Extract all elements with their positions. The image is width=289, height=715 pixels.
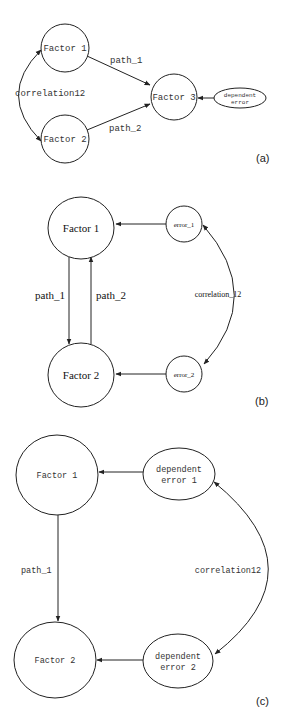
diagram-c: correlation12 path_1 Factor 1 Factor 2 d… [14, 435, 269, 707]
factor-3-label-a: Factor 3 [152, 93, 195, 103]
factor-2-label-b: Factor 2 [63, 369, 99, 381]
error-2-label-b: error_2 [174, 371, 195, 379]
correlation-label-b: correlation_12 [195, 290, 242, 299]
dependent-error-1-label-line1-c: dependent [156, 465, 202, 475]
dependent-error-2-label-line2-c: error 2 [160, 663, 196, 673]
path-2-label-a: path_2 [109, 124, 141, 134]
path-1-label-c: path_1 [21, 566, 52, 576]
dependent-error-2-label-line1-c: dependent [155, 652, 201, 662]
factor-1-label-c: Factor 1 [37, 471, 78, 481]
correlation-label-a: correlation12 [15, 89, 85, 99]
path-diagrams-figure: correlation12 path_1 path_2 Factor 1 Fac… [0, 0, 289, 715]
panel-label-c: (c) [256, 695, 269, 707]
correlation-label-c: correlation12 [195, 566, 261, 576]
factor-2-label-c: Factor 2 [35, 656, 76, 666]
path-1-label-a: path_1 [110, 56, 142, 66]
diagram-a: correlation12 path_1 path_2 Factor 1 Fac… [15, 24, 269, 164]
error-1-label-b: error_1 [174, 221, 195, 229]
path-2-label-b: path_2 [96, 289, 126, 301]
path-1-label-b: path_1 [35, 289, 65, 301]
panel-label-b: (b) [255, 395, 268, 407]
dependent-error-label-line1-a: dependent [224, 92, 256, 99]
factor-2-label-a: Factor 2 [43, 135, 86, 145]
factor-1-label-b: Factor 1 [63, 222, 99, 234]
dependent-error-label-line2-a: error [231, 99, 249, 106]
factor-1-label-a: Factor 1 [43, 44, 86, 54]
panel-label-a: (a) [256, 152, 269, 164]
diagram-b: correlation_12 path_1 path_2 Factor 1 Fa… [35, 197, 268, 407]
dependent-error-1-label-line2-c: error 1 [161, 476, 197, 486]
